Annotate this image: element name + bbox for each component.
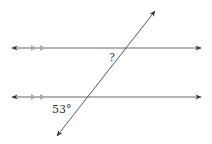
- top-parallel-line: [12, 45, 201, 51]
- transversal-line: [57, 11, 155, 136]
- parallel-lines-diagram: ? 53°: [0, 0, 212, 144]
- given-angle-label: 53°: [52, 103, 72, 116]
- bottom-parallel-line: [12, 94, 201, 100]
- unknown-angle-label: ?: [109, 51, 115, 64]
